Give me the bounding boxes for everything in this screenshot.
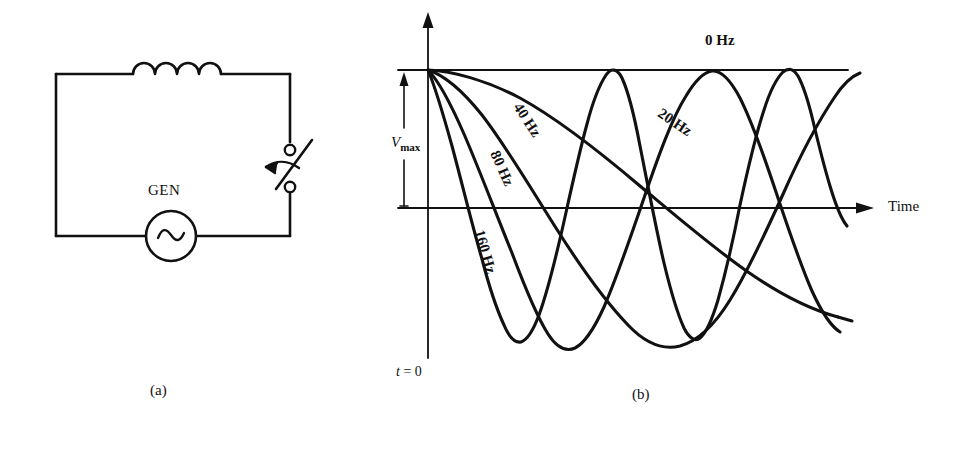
time-origin-label: t = 0 <box>396 364 422 380</box>
x-axis-arrowhead-icon <box>856 203 874 214</box>
switch-terminal-top <box>285 145 295 155</box>
vmax-label: Vmax <box>391 134 420 153</box>
vmax-symbol: V <box>391 134 400 150</box>
curve-160hz <box>428 69 847 342</box>
vmax-subscript: max <box>400 141 420 153</box>
panel-a-caption: (a) <box>150 382 167 399</box>
generator-label: GEN <box>148 182 180 199</box>
y-axis-arrowhead-icon <box>423 12 434 28</box>
waveform-plot <box>398 12 874 358</box>
switch-terminal-bottom <box>285 182 295 192</box>
figure-canvas <box>0 0 980 460</box>
x-axis-label: Time <box>888 198 919 215</box>
inductor-icon <box>133 63 221 74</box>
time-origin-rest: = 0 <box>400 364 422 379</box>
curve-20hz-tail <box>838 317 852 321</box>
panel-b-caption: (b) <box>632 386 650 403</box>
circuit-diagram <box>56 63 312 261</box>
curve-label-0hz: 0 Hz <box>705 32 735 49</box>
